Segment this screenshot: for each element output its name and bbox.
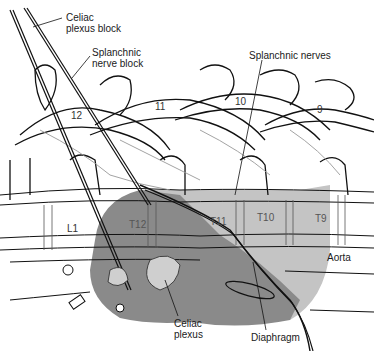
- body-label-t9: T9: [315, 213, 327, 224]
- body-label-t11: T11: [210, 216, 227, 227]
- body-label-l1: L1: [67, 223, 78, 234]
- label-splanchnic-nerve-block: Splanchnic nerve block: [92, 47, 143, 69]
- label-celiac-plexus-block: Celiac plexus block: [66, 12, 121, 34]
- label-diaphragm: Diaphragm: [251, 332, 300, 343]
- vertebra-number-11: 11: [155, 101, 165, 112]
- anatomy-diagram: Celiac plexus block Splanchnic nerve blo…: [0, 0, 374, 351]
- label-celiac-plexus: Celiac plexus: [174, 318, 203, 340]
- label-aorta: Aorta: [327, 252, 351, 263]
- body-label-t12: T12: [129, 219, 146, 230]
- vertebra-number-9: 9: [317, 104, 323, 115]
- label-splanchnic-nerves: Splanchnic nerves: [249, 50, 331, 61]
- body-label-t10: T10: [257, 212, 274, 223]
- vertebra-number-10: 10: [235, 96, 246, 107]
- vertebra-number-12: 12: [71, 110, 82, 121]
